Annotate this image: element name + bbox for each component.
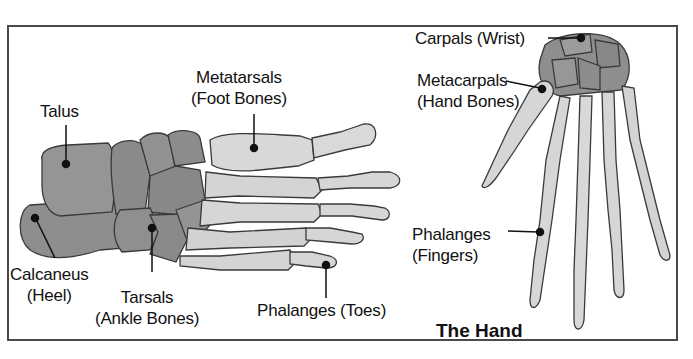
label-calcaneus: Calcaneus (Heel)	[10, 264, 89, 306]
label-phalanges-toes-text: Phalanges (Toes)	[257, 300, 386, 321]
label-metacarpals: Metacarpals (Hand Bones)	[417, 70, 520, 112]
label-metatarsals-line2: (Foot Bones)	[191, 88, 287, 109]
label-carpals: Carpals (Wrist)	[415, 28, 525, 49]
label-phalanges-toes: Phalanges (Toes)	[257, 300, 386, 321]
label-metacarpals-line2: (Hand Bones)	[417, 91, 520, 112]
label-metatarsals: Metatarsals (Foot Bones)	[191, 67, 287, 109]
label-tarsals-line1: Tarsals	[95, 287, 199, 308]
label-phalanges-fingers-line2: (Fingers)	[412, 245, 491, 266]
label-phalanges-fingers-line1: Phalanges	[412, 224, 491, 245]
label-carpals-text: Carpals (Wrist)	[415, 28, 525, 49]
foot-skeleton	[20, 124, 400, 270]
label-tarsals-line2: (Ankle Bones)	[95, 308, 199, 329]
label-metatarsals-line1: Metatarsals	[191, 67, 287, 88]
label-calcaneus-line2: (Heel)	[10, 285, 89, 306]
hand-title: The Hand	[436, 320, 523, 342]
label-talus-text: Talus	[40, 101, 79, 122]
label-talus: Talus	[40, 101, 79, 122]
label-metacarpals-line1: Metacarpals	[417, 70, 520, 91]
label-calcaneus-line1: Calcaneus	[10, 264, 89, 285]
label-tarsals: Tarsals (Ankle Bones)	[95, 287, 199, 329]
label-phalanges-fingers: Phalanges (Fingers)	[412, 224, 491, 266]
